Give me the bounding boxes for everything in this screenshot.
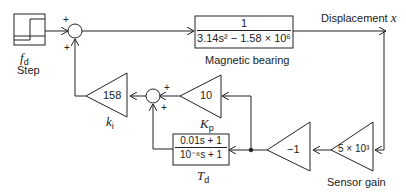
sensor-gain-label: Sensor gain [327,176,386,188]
plant-label: Magnetic bearing [205,54,289,66]
main-summer-sign-bottom: + [64,42,70,53]
plant-transfer-function: 1 3.14s² − 1.58 × 10⁶ [197,17,291,44]
kp-gain-value: 10 [200,89,212,101]
td-symbol: Td [197,168,209,185]
inverter-gain-value: −1 [287,143,300,155]
inner-summer-sign-right: + [164,82,170,93]
step-label: Step [17,64,40,76]
main-summing-junction [68,24,82,38]
main-summer-sign-top: + [63,14,69,25]
kp-symbol: Kp [200,116,214,133]
ki-gain-value: 158 [103,89,121,101]
td-transfer-function: 0.01s + 1 10⁻⁶s + 1 [175,135,227,160]
output-label: Displacement x [321,10,396,26]
inner-summer-sign-bottom: + [161,102,167,113]
sensor-gain-value: 5 × 10³ [338,143,369,154]
ki-symbol: ki [106,114,114,131]
